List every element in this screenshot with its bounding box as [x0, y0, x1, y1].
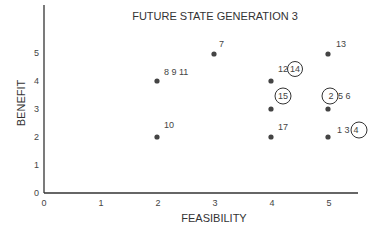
y-tick-4: 4 — [34, 76, 39, 86]
data-points: 8 9 11 7 10 12 14 15 17 13 2 5 6 1 3 4 — [154, 39, 367, 140]
point-label-circled: 4 — [353, 125, 358, 135]
point-label: 5 6 — [338, 91, 351, 101]
point-label: 17 — [278, 122, 288, 132]
data-point — [268, 78, 273, 83]
point-label: 12 — [278, 64, 288, 74]
point-label: 13 — [336, 39, 346, 49]
point-label-circled: 14 — [290, 64, 300, 74]
data-point — [154, 78, 159, 83]
x-axis-label: FEASIBILITY — [181, 212, 247, 224]
point-label-circled: 2 — [328, 91, 333, 101]
point-label-circled: 15 — [278, 91, 288, 101]
point-label: 10 — [164, 120, 174, 130]
x-tick-2: 2 — [155, 198, 160, 208]
data-point — [325, 134, 330, 139]
y-tick-2: 2 — [34, 132, 39, 142]
y-tick-0: 0 — [34, 188, 39, 198]
x-tick-5: 5 — [326, 198, 331, 208]
x-axis-ticks: 0 1 2 3 4 5 — [41, 198, 331, 208]
point-label: 8 9 11 — [164, 67, 188, 77]
point-label: 7 — [219, 39, 224, 49]
y-axis-label: BENEFIT — [15, 79, 27, 126]
point-label: 1 3 — [337, 125, 350, 135]
chart-title: FUTURE STATE GENERATION 3 — [132, 10, 298, 22]
data-point — [325, 51, 330, 56]
data-point — [325, 106, 330, 111]
scatter-chart: FUTURE STATE GENERATION 3 0 1 2 3 4 5 0 … — [0, 0, 386, 236]
x-tick-3: 3 — [212, 198, 217, 208]
data-point — [268, 106, 273, 111]
y-tick-3: 3 — [34, 104, 39, 114]
x-tick-0: 0 — [41, 198, 46, 208]
data-point — [154, 134, 159, 139]
y-tick-5: 5 — [34, 48, 39, 58]
x-tick-1: 1 — [98, 198, 103, 208]
x-tick-4: 4 — [269, 198, 274, 208]
y-axis-ticks: 0 1 2 3 4 5 — [34, 48, 39, 198]
y-tick-1: 1 — [34, 160, 39, 170]
data-point — [268, 134, 273, 139]
data-point — [211, 51, 216, 56]
